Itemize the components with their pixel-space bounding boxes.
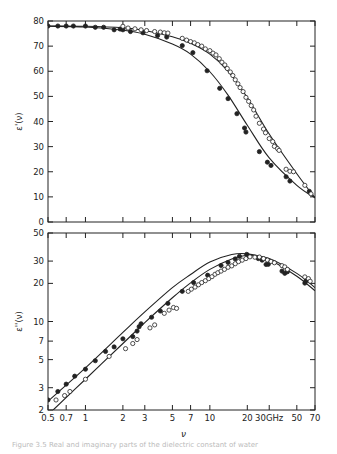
y-axis-label: ε'(ν): [14, 112, 24, 130]
data-point: [112, 28, 116, 32]
data-point: [263, 131, 267, 135]
data-point: [257, 255, 261, 259]
data-point: [285, 267, 289, 271]
data-point: [64, 382, 68, 386]
data-point: [184, 38, 188, 42]
data-point: [244, 256, 248, 260]
x-axis-label: ν: [181, 429, 186, 439]
y-tick-label: 3: [39, 383, 44, 393]
data-point: [265, 160, 269, 164]
x-tick-label: 1: [83, 413, 88, 423]
data-point: [133, 27, 137, 31]
data-point: [257, 121, 261, 125]
x-tick-label: 70: [310, 413, 321, 423]
y-tick-label: 20: [33, 167, 44, 177]
y-tick-label: 7: [39, 336, 44, 346]
data-point: [252, 108, 256, 112]
data-point: [158, 30, 162, 34]
data-point: [254, 114, 258, 118]
y-axis-label: ε''(ν): [14, 311, 24, 332]
data-point: [308, 279, 312, 283]
data-point: [121, 337, 125, 341]
y-tick-label: 10: [33, 317, 44, 327]
fit-curve: [48, 26, 315, 198]
data-point: [277, 148, 281, 152]
data-point: [200, 44, 204, 48]
data-point: [107, 354, 111, 358]
data-point: [68, 389, 72, 393]
x-tick-label: 50: [291, 413, 302, 423]
data-point: [162, 311, 166, 315]
data-point: [226, 97, 230, 101]
chart-canvas: 01020304050607080ε'(ν)0.50.712357102030G…: [0, 0, 337, 454]
series-open-circle: [53, 255, 315, 410]
data-point: [135, 337, 139, 341]
x-tick-label: 0.7: [59, 413, 73, 423]
data-point: [123, 347, 127, 351]
plot-frame: [48, 21, 315, 222]
data-point: [291, 170, 295, 174]
data-point: [303, 183, 307, 187]
data-point: [180, 36, 184, 40]
data-point: [167, 308, 171, 312]
data-point: [225, 66, 229, 70]
data-point: [126, 26, 130, 30]
x-tick-label: 3: [142, 413, 147, 423]
data-point: [144, 28, 148, 32]
y-tick-label: 50: [33, 91, 44, 101]
data-point: [248, 255, 252, 259]
data-point: [288, 179, 292, 183]
data-point: [83, 377, 87, 381]
data-point: [233, 78, 237, 82]
data-point: [284, 175, 288, 179]
bottom-panel: 0.50.712357102030GHz5070235710203050ε''(…: [14, 228, 320, 439]
data-point: [244, 130, 248, 134]
y-tick-label: 30: [33, 256, 44, 266]
series-filled-circle: [46, 24, 315, 198]
data-point: [63, 393, 67, 397]
data-point: [244, 95, 248, 99]
y-tick-label: 40: [33, 117, 44, 127]
data-point: [218, 86, 222, 90]
data-point: [231, 73, 235, 77]
x-tick-label: 5: [170, 413, 175, 423]
series-open-circle: [48, 24, 315, 198]
y-tick-label: 0: [39, 217, 44, 227]
figure-caption: Figure 3.5 Real and imaginary parts of t…: [12, 441, 332, 449]
data-point: [242, 126, 246, 130]
x-tick-label: 10: [204, 413, 215, 423]
data-point: [180, 44, 184, 48]
data-point: [148, 326, 152, 330]
x-tick-label: 30GHz: [255, 413, 284, 423]
data-point: [174, 306, 178, 310]
x-tick-label: 7: [188, 413, 193, 423]
data-point: [203, 47, 207, 51]
data-point: [247, 99, 251, 103]
data-point: [269, 163, 273, 167]
data-point: [249, 104, 253, 108]
top-panel: 01020304050607080ε'(ν): [14, 16, 315, 227]
fit-curve: [48, 253, 315, 401]
data-point: [103, 349, 107, 353]
data-point: [309, 192, 313, 196]
data-point: [253, 255, 257, 259]
data-point: [73, 374, 77, 378]
y-tick-label: 50: [33, 228, 44, 238]
data-point: [271, 140, 275, 144]
data-point: [267, 136, 271, 140]
data-point: [54, 398, 58, 402]
data-point: [166, 31, 170, 35]
y-tick-label: 60: [33, 66, 44, 76]
data-point: [93, 25, 97, 29]
y-tick-label: 70: [33, 41, 44, 51]
data-point: [153, 323, 157, 327]
data-point: [257, 150, 261, 154]
data-point: [56, 389, 60, 393]
x-tick-label: 2: [120, 413, 125, 423]
data-point: [46, 398, 50, 402]
data-point: [214, 53, 218, 57]
y-tick-label: 2: [39, 405, 44, 415]
y-tick-label: 30: [33, 142, 44, 152]
data-point: [112, 345, 116, 349]
data-point: [238, 85, 242, 89]
